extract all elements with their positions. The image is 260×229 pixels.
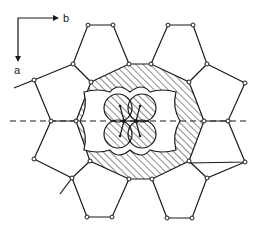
crystal-structure-diagram: b a	[0, 0, 260, 229]
a-arrow-icon	[15, 56, 21, 62]
axis-label-a: a	[14, 64, 21, 76]
axis-indicator: b a	[14, 12, 69, 76]
b-arrow-icon	[53, 15, 59, 21]
axis-label-b: b	[63, 12, 69, 24]
